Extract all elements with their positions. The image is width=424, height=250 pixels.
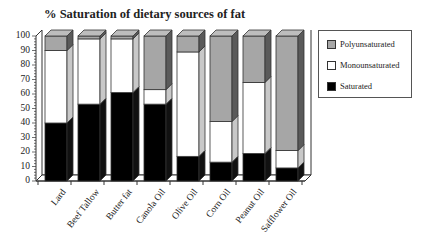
y-tick-label: 20 (8, 146, 30, 156)
y-tick-label: 30 (8, 132, 30, 142)
bar-segment (111, 93, 133, 181)
legend-label: Polyunsaturated (340, 39, 395, 49)
bar-segment (177, 156, 199, 181)
legend-label: Saturated (340, 81, 372, 91)
y-tick-label: 10 (8, 161, 30, 171)
y-tick-label: 80 (8, 59, 30, 69)
bar-segment (276, 151, 298, 168)
bar-segment (144, 90, 166, 105)
bar-segment (144, 104, 166, 181)
bar-segment (243, 153, 265, 181)
legend-item-saturated: Saturated (327, 81, 372, 91)
bar-segment (111, 36, 133, 39)
bar-segment (177, 36, 199, 52)
legend-item-polyunsaturated: Polyunsaturated (327, 39, 395, 49)
bar-segment (144, 36, 166, 90)
legend-item-monounsaturated: Monounsaturated (327, 60, 400, 70)
bar-segment (210, 162, 232, 181)
y-tick-label: 70 (8, 74, 30, 84)
polyunsaturated-swatch (327, 40, 336, 49)
monounsaturated-swatch (327, 61, 336, 70)
legend: Polyunsaturated Monounsaturated Saturate… (318, 30, 412, 98)
y-tick-label: 0 (8, 175, 30, 185)
bar-segment (177, 52, 199, 156)
bar-segment (78, 104, 100, 181)
bar-segment (78, 36, 100, 39)
bar-segment (111, 39, 133, 93)
bar-segment (243, 36, 265, 82)
y-tick-label: 40 (8, 117, 30, 127)
y-tick-label: 50 (8, 103, 30, 113)
saturated-swatch (327, 82, 336, 91)
bar-segment (276, 168, 298, 181)
bar-segment (210, 36, 232, 122)
y-tick-label: 90 (8, 45, 30, 55)
bar-segment (78, 39, 100, 104)
bar-segment (243, 82, 265, 153)
y-tick-label: 60 (8, 88, 30, 98)
bar-segment (45, 123, 67, 181)
y-tick-label: 100 (8, 30, 30, 40)
legend-label: Monounsaturated (340, 60, 400, 70)
bar-segment (45, 36, 67, 51)
bar-segment (45, 51, 67, 124)
bar-segment (210, 122, 232, 163)
bar-segment (276, 36, 298, 151)
